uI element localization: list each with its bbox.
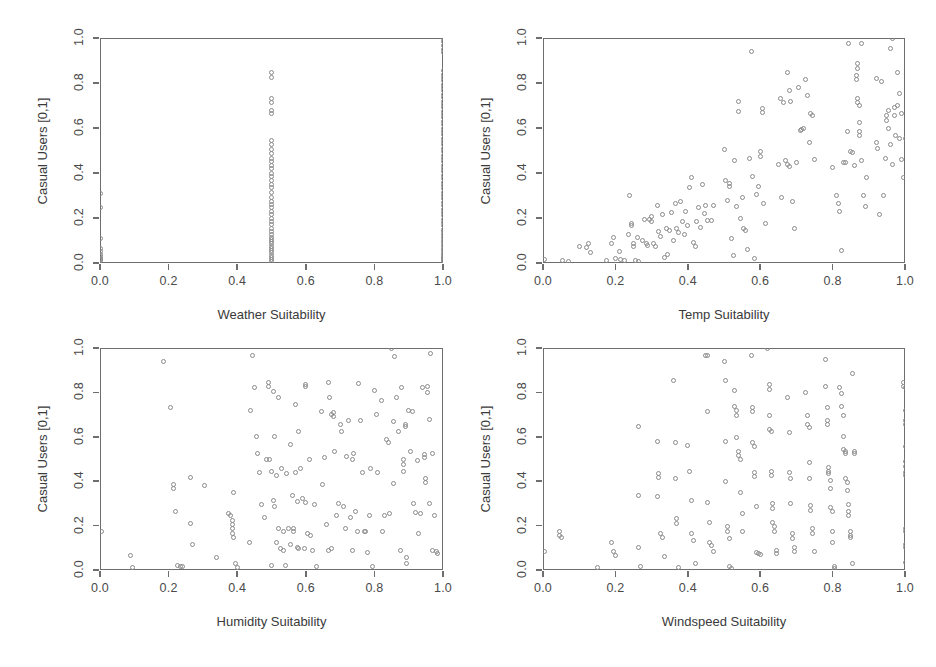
data-point bbox=[750, 409, 755, 414]
data-point bbox=[656, 475, 661, 480]
data-point bbox=[543, 549, 547, 554]
data-point bbox=[841, 434, 846, 439]
data-point bbox=[770, 506, 775, 511]
data-point bbox=[685, 443, 690, 448]
data-point bbox=[674, 521, 679, 526]
data-point bbox=[687, 469, 692, 474]
data-point bbox=[903, 408, 906, 413]
data-point bbox=[787, 470, 792, 475]
y-tick bbox=[536, 569, 542, 571]
data-point bbox=[903, 529, 906, 534]
data-point bbox=[595, 565, 600, 570]
data-point bbox=[638, 564, 643, 569]
data-point bbox=[559, 535, 564, 540]
data-point bbox=[830, 529, 835, 534]
data-point bbox=[673, 440, 678, 445]
data-point bbox=[837, 385, 842, 390]
data-point bbox=[732, 388, 737, 393]
data-point bbox=[808, 508, 813, 513]
y-axis-label: Casual Users [0,1] bbox=[478, 406, 493, 513]
y-tick bbox=[536, 480, 542, 482]
data-point bbox=[765, 348, 770, 351]
data-point bbox=[749, 353, 754, 358]
data-point bbox=[787, 430, 792, 435]
x-tick-label: 1.0 bbox=[896, 581, 914, 595]
x-tick-label: 0.6 bbox=[751, 581, 769, 595]
data-point bbox=[689, 531, 694, 536]
y-tick-label: 0.4 bbox=[515, 467, 529, 493]
data-point bbox=[845, 488, 850, 493]
x-axis-label: Windspeed Suitability bbox=[662, 614, 786, 629]
y-tick-label: 0.6 bbox=[515, 423, 529, 449]
data-point bbox=[845, 480, 850, 485]
data-point bbox=[734, 413, 739, 418]
data-point bbox=[852, 451, 857, 456]
data-point bbox=[774, 551, 779, 556]
x-tick bbox=[542, 571, 544, 577]
x-tick bbox=[615, 571, 617, 577]
data-point bbox=[903, 459, 906, 464]
data-point bbox=[903, 464, 906, 469]
x-tick bbox=[759, 571, 761, 577]
data-point bbox=[792, 549, 797, 554]
data-point bbox=[807, 460, 812, 465]
data-point bbox=[727, 536, 732, 541]
data-point bbox=[767, 387, 772, 392]
x-tick-label: 0.4 bbox=[679, 581, 697, 595]
data-point bbox=[772, 529, 777, 534]
y-tick-label: 0.2 bbox=[515, 512, 529, 538]
data-point bbox=[636, 493, 641, 498]
data-point bbox=[671, 378, 676, 383]
data-point bbox=[723, 439, 728, 444]
data-point bbox=[810, 531, 815, 536]
data-point bbox=[740, 511, 745, 516]
data-point bbox=[738, 490, 743, 495]
x-tick bbox=[832, 571, 834, 577]
data-point bbox=[707, 520, 712, 525]
data-point bbox=[740, 529, 745, 534]
data-point bbox=[655, 439, 660, 444]
data-point bbox=[830, 540, 835, 545]
scatter-panel-bottom-right: 0.00.20.40.60.81.00.00.20.40.60.81.0Casu… bbox=[0, 0, 936, 667]
data-point bbox=[903, 422, 906, 427]
data-point bbox=[660, 535, 665, 540]
data-point bbox=[839, 391, 844, 396]
data-point bbox=[655, 494, 660, 499]
data-point bbox=[807, 425, 812, 430]
data-point bbox=[738, 457, 743, 462]
data-point bbox=[723, 378, 728, 383]
data-point bbox=[846, 502, 851, 507]
data-point bbox=[676, 565, 681, 570]
data-point bbox=[803, 390, 808, 395]
data-point bbox=[825, 405, 830, 410]
data-point bbox=[843, 451, 848, 456]
data-point bbox=[705, 409, 710, 414]
x-tick-label: 0.0 bbox=[534, 581, 552, 595]
data-point bbox=[832, 566, 837, 570]
data-point bbox=[609, 540, 614, 545]
x-tick-label: 0.8 bbox=[824, 581, 842, 595]
y-tick bbox=[536, 525, 542, 527]
data-point bbox=[705, 353, 710, 358]
data-point bbox=[903, 444, 906, 449]
data-point bbox=[770, 501, 775, 506]
data-point bbox=[850, 371, 855, 376]
x-tick-label: 0.2 bbox=[606, 581, 624, 595]
y-tick bbox=[536, 436, 542, 438]
data-point bbox=[662, 554, 667, 559]
data-point bbox=[705, 500, 710, 505]
data-point bbox=[752, 444, 757, 449]
data-point bbox=[769, 473, 774, 478]
data-point bbox=[636, 424, 641, 429]
data-point bbox=[828, 486, 833, 491]
data-point bbox=[673, 476, 678, 481]
data-point bbox=[709, 543, 714, 548]
data-point bbox=[752, 474, 757, 479]
data-point bbox=[812, 549, 817, 554]
x-tick bbox=[687, 571, 689, 577]
data-point bbox=[693, 561, 698, 566]
data-point bbox=[903, 385, 906, 390]
data-point bbox=[790, 531, 795, 536]
data-point bbox=[722, 359, 727, 364]
data-point bbox=[758, 552, 763, 557]
